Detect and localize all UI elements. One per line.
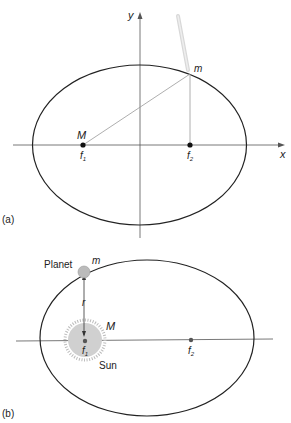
mass-M-label: M [77,129,87,141]
y-axis-label: y [127,9,135,21]
string-f1-to-m [83,74,190,145]
panel-b: Planet m r M f1 f2 Sun (b) [2,255,273,419]
pencil-icon [178,16,188,70]
focus-2-point-b [189,338,193,342]
panel-a: y x M m f1 f2 (a) [2,9,286,238]
focus-2-label: f2 [187,150,194,162]
kepler-orbit-diagram: y x M m f1 f2 (a) Planet m r M f1 f2 Sun… [0,0,291,423]
x-axis-arrow-icon [278,143,285,148]
radius-r-label: r [82,297,86,308]
sun-mass-M-label: M [106,320,116,332]
mass-m-label: m [194,63,202,74]
panel-b-label: (b) [2,408,14,419]
planet-mass-m-label: m [92,255,100,266]
sun-label: Sun [99,360,117,371]
planet-label: Planet [44,259,73,270]
y-axis-arrow-icon [138,12,143,19]
focus-1-point [80,142,85,147]
planet-icon [78,266,90,278]
focus-1-label: f1 [80,150,86,162]
x-axis-label: x [279,148,286,160]
panel-a-label: (a) [2,214,14,225]
focus-1-point-b [83,339,87,343]
focus-2-point [187,142,192,147]
major-axis-b [16,339,273,341]
focus-2-label-b: f2 [188,345,195,357]
